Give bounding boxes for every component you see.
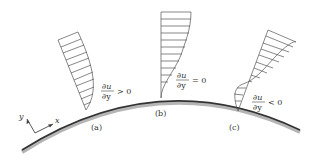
svg-text:∂u: ∂u (253, 93, 262, 102)
svg-text:< 0: < 0 (268, 98, 282, 107)
svg-text:∂y: ∂y (177, 81, 186, 90)
velocity-profile-c (234, 30, 296, 111)
y-axis-label: y (18, 112, 24, 121)
gradient-label-b: ∂u ∂y = 0 (176, 71, 206, 90)
gradient-label-c: ∂u ∂y < 0 (252, 93, 282, 112)
svg-text:∂u: ∂u (177, 71, 186, 80)
svg-text:= 0: = 0 (192, 76, 206, 85)
velocity-profile-b (161, 12, 191, 98)
svg-text:∂y: ∂y (102, 92, 111, 101)
svg-text:> 0: > 0 (117, 87, 131, 96)
velocity-profile-a (58, 32, 94, 110)
gradient-label-a: ∂u ∂y > 0 (101, 82, 131, 101)
diagram-canvas: x y ∂u ∂y > 0 (a) (0, 0, 313, 164)
svg-text:∂u: ∂u (102, 82, 111, 91)
svg-text:∂y: ∂y (253, 103, 262, 112)
x-axis-label: x (55, 116, 60, 125)
profile-label-a: (a) (91, 123, 102, 132)
profile-label-c: (c) (229, 123, 240, 132)
profile-label-b: (b) (155, 109, 166, 118)
coordinate-axes: x y (18, 112, 60, 133)
